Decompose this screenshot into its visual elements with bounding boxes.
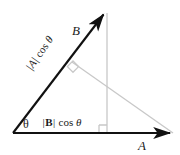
angle-theta-label: θ <box>23 118 29 130</box>
vectors <box>13 15 170 134</box>
projection-on-a-theta: θ <box>76 116 81 128</box>
vector-projection-figure: B A θ |B| cos θ |A| cos θ <box>0 0 180 155</box>
projection-on-a-cos: cos <box>59 116 74 128</box>
right-angle-marker-base-icon <box>99 125 107 133</box>
projection-on-a-label: |B| cos θ <box>42 117 81 128</box>
vector-b-label: B <box>72 24 80 37</box>
construction-lines <box>67 13 173 133</box>
vector-diagram-canvas <box>0 0 180 155</box>
perpendicular-to-b-line <box>72 62 173 133</box>
abs-bar-close-left: | <box>53 116 56 128</box>
angle-arc <box>32 118 39 134</box>
vector-a-label: A <box>138 139 146 152</box>
projection-on-a-vector-symbol: B <box>45 116 52 128</box>
